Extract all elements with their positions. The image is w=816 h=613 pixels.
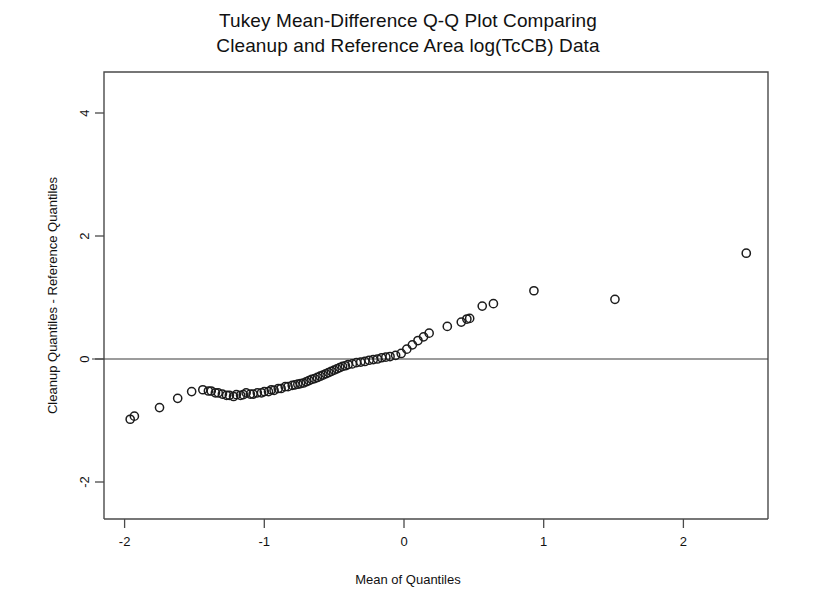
data-points-group — [126, 249, 750, 423]
data-point — [155, 403, 163, 411]
data-point — [611, 295, 619, 303]
data-point — [530, 287, 538, 295]
y-tick-label-4: 4 — [77, 109, 92, 116]
plot-canvas: -2-1012-2024 — [0, 0, 816, 613]
y-tick-label-0: 0 — [77, 355, 92, 362]
x-tick-label-0: 0 — [400, 534, 407, 549]
data-point — [408, 341, 416, 349]
x-tick-label--2: -2 — [119, 534, 131, 549]
data-point — [174, 394, 182, 402]
data-point — [188, 387, 196, 395]
data-point — [199, 386, 207, 394]
axes-group — [104, 72, 768, 519]
data-point — [397, 349, 405, 357]
plot-frame — [104, 72, 768, 519]
data-point — [742, 249, 750, 257]
data-point — [443, 322, 451, 330]
x-axis-title: Mean of Quantiles — [0, 572, 816, 587]
data-point — [478, 302, 486, 310]
qq-plot-figure: Tukey Mean-Difference Q-Q Plot Comparing… — [0, 0, 816, 613]
data-point — [403, 345, 411, 353]
data-point — [489, 300, 497, 308]
x-tick-label-2: 2 — [680, 534, 687, 549]
x-tick-label--1: -1 — [259, 534, 271, 549]
y-tick-label-2: 2 — [77, 232, 92, 239]
x-tick-label-1: 1 — [540, 534, 547, 549]
y-tick-label--2: -2 — [77, 476, 92, 488]
data-point — [392, 351, 400, 359]
axis-ticks-group: -2-1012-2024 — [77, 109, 688, 549]
